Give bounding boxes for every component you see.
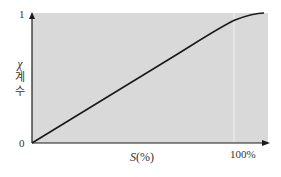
- y-axis-label: χ 계 수: [14, 57, 26, 99]
- x-tick-100: 100%: [230, 148, 256, 160]
- y-axis-word-1: 계: [14, 71, 26, 85]
- plot-area: [32, 13, 268, 143]
- y-tick-1: 1: [19, 8, 25, 20]
- y-axis-symbol: χ: [14, 57, 26, 71]
- y-axis-word-2: 수: [14, 85, 26, 99]
- y-tick-0: 0: [19, 137, 25, 149]
- x-axis-unit: (%): [136, 150, 154, 164]
- x-axis-label: S(%): [130, 150, 154, 165]
